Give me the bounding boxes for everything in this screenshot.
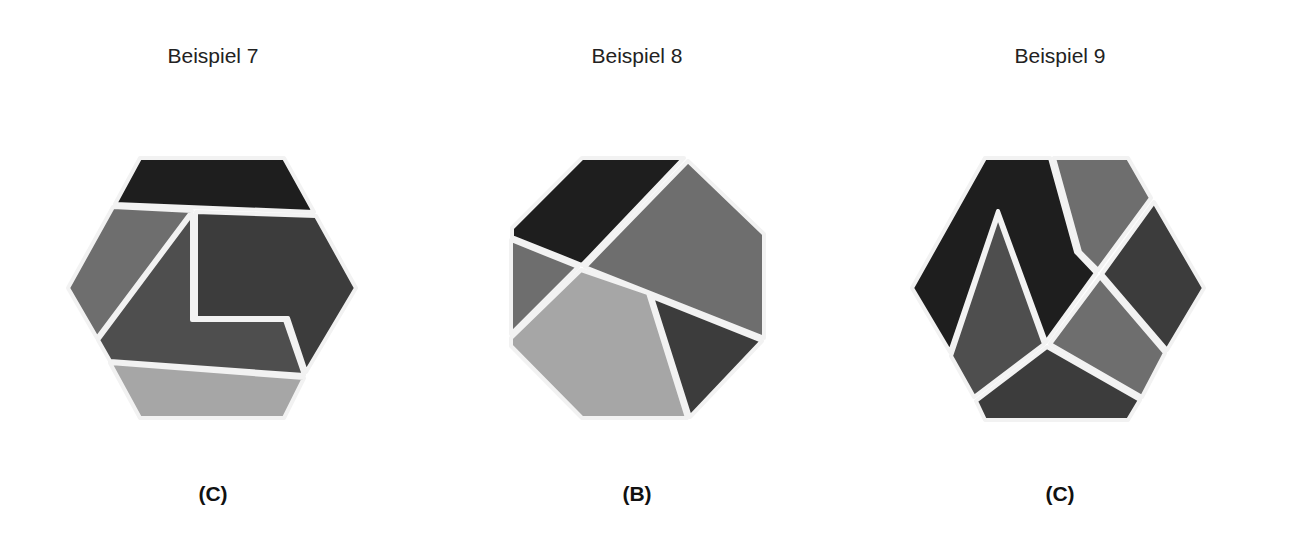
example-9-hexagon: [912, 158, 1204, 420]
example-8-answer: (B): [587, 482, 687, 506]
example-7-hexagon: [68, 158, 356, 418]
puzzle-figures: [0, 0, 1292, 542]
example-8-octagon: [511, 158, 764, 418]
piece-top-black: [115, 158, 314, 212]
example-7-answer: (C): [163, 482, 263, 506]
example-9-answer: (C): [1010, 482, 1110, 506]
